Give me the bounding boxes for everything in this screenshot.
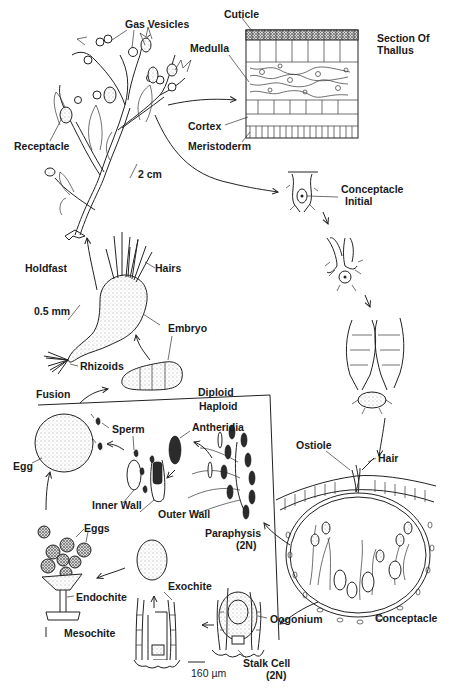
label-eggs: Eggs	[84, 522, 110, 534]
conceptacle-initial-illustration	[286, 172, 318, 212]
label-cuticle: Cuticle	[224, 8, 259, 20]
conceptacle-developing-stage-2	[346, 318, 403, 414]
label-meristoderm: Meristoderm	[188, 140, 251, 152]
label-oogonium: Oogonium	[270, 613, 323, 625]
conceptacle-developing-stage-1	[325, 238, 363, 291]
antheridium	[169, 436, 181, 464]
label-exochite: Exochite	[168, 580, 212, 592]
mature-conceptacle-illustration	[276, 458, 436, 624]
label-antheridia: Antheridia	[192, 421, 244, 433]
label-scale-0-5mm: 0.5 mm	[34, 305, 70, 317]
label-inner-wall: Inner Wall	[92, 499, 142, 511]
label-embryo: Embryo	[168, 322, 207, 334]
label-stalk-cell-ploidy: (2N)	[266, 669, 286, 681]
label-paraphysis: Paraphysis	[205, 527, 261, 539]
label-scale-2cm: 2 cm	[138, 168, 162, 180]
label-cortex: Cortex	[188, 120, 221, 132]
label-conceptacle-initial-2: Initial	[345, 195, 372, 207]
label-scale-160um: 160 µm	[191, 667, 226, 679]
label-receptacle: Receptacle	[14, 140, 69, 152]
label-haploid: Haploid	[199, 400, 238, 412]
label-sperm: Sperm	[112, 423, 145, 435]
label-mesochite: Mesochite	[64, 627, 115, 639]
label-diploid: Diploid	[198, 386, 234, 398]
released-oogonium-illustration	[134, 598, 180, 668]
eggs-release-illustration	[38, 526, 91, 620]
thallus-section-illustration	[246, 30, 358, 138]
egg-cell-illustration	[35, 414, 93, 472]
egg-packet-illustration	[137, 540, 167, 580]
diagram-artwork	[0, 0, 451, 690]
label-stalk-cell: Stalk Cell	[243, 657, 290, 669]
label-outer-wall: Outer Wall	[158, 508, 210, 520]
label-section-of-thallus-2: Thallus	[377, 44, 414, 56]
label-ostiole: Ostiole	[296, 439, 332, 451]
label-medulla: Medulla	[190, 42, 229, 54]
label-endochite: Endochite	[76, 591, 127, 603]
label-rhizoids: Rhizoids	[80, 360, 124, 372]
label-egg: Egg	[13, 460, 33, 472]
label-holdfast: Holdfast	[25, 262, 67, 274]
label-conceptacle-initial-1: Conceptacle	[341, 183, 403, 195]
thallus-plant-illustration	[45, 27, 191, 240]
young-embryo-illustration	[122, 362, 183, 390]
label-fusion: Fusion	[36, 388, 70, 400]
oogonium-illustration	[212, 588, 264, 657]
label-section-of-thallus-1: Section Of	[377, 32, 430, 44]
label-gas-vesicles: Gas Vesicles	[125, 18, 189, 30]
label-conceptacle: Conceptacle	[375, 612, 437, 624]
label-paraphysis-ploidy: (2N)	[236, 539, 256, 551]
label-hairs: Hairs	[155, 262, 181, 274]
germling-illustration	[44, 232, 152, 374]
fucus-life-cycle-diagram: Gas Vesicles Cuticle Medulla Section Of …	[0, 0, 451, 690]
antheridial-branch-illustration	[188, 425, 255, 519]
antheridium-release-illustration	[127, 460, 165, 502]
label-hair: Hair	[378, 452, 398, 464]
